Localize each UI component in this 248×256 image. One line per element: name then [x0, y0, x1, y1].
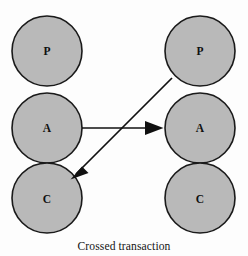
- transaction-diagram: P A C P A C Crossed transaction: [0, 0, 248, 256]
- response-arrow-head: [71, 167, 89, 180]
- stimulus-arrow-head: [145, 121, 164, 135]
- left-person-column: P A C: [12, 16, 82, 233]
- node-left-child[interactable]: [12, 163, 82, 233]
- node-right-child[interactable]: [165, 163, 235, 233]
- node-left-parent[interactable]: [12, 16, 82, 86]
- node-right-adult[interactable]: [165, 93, 235, 163]
- node-left-adult[interactable]: [12, 93, 82, 163]
- crossed-transaction-figure: P A C P A C Crossed transaction: [0, 0, 248, 256]
- right-person-column: P A C: [165, 16, 235, 233]
- edge-stimulus-adult-to-adult: [82, 121, 164, 135]
- node-right-parent[interactable]: [165, 16, 235, 86]
- figure-caption: Crossed transaction: [77, 240, 170, 253]
